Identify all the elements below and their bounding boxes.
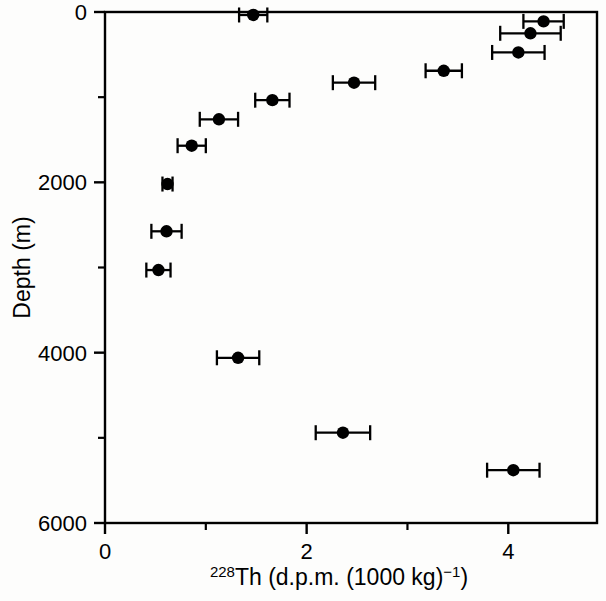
data-point-marker bbox=[213, 113, 225, 125]
data-point-marker bbox=[247, 9, 259, 21]
data-point-marker bbox=[266, 94, 278, 106]
y-tick-label: 0 bbox=[75, 0, 87, 25]
y-tick-label: 4000 bbox=[38, 341, 87, 366]
data-point-marker bbox=[186, 140, 198, 152]
data-point-marker bbox=[537, 15, 549, 27]
y-axis-tick-labels: 0200040006000 bbox=[38, 0, 87, 536]
data-point-marker bbox=[160, 225, 172, 237]
data-point-marker bbox=[232, 352, 244, 364]
y-tick-label: 6000 bbox=[38, 511, 87, 536]
plot-frame bbox=[105, 12, 597, 523]
data-point-marker bbox=[512, 46, 524, 58]
y-axis-label: Depth (m) bbox=[9, 216, 35, 318]
isotope-superscript: 228 bbox=[210, 563, 235, 580]
y-tick-label: 2000 bbox=[38, 170, 87, 195]
data-point-marker bbox=[438, 65, 450, 77]
x-tick-label: 0 bbox=[99, 539, 111, 564]
data-points bbox=[152, 9, 550, 477]
data-point-marker bbox=[161, 178, 173, 190]
units-close-paren: ) bbox=[460, 564, 468, 590]
x-axis-label-text: 228Th (d.p.m. (1000 kg)−1) bbox=[210, 563, 468, 591]
plot-frame-rect bbox=[105, 12, 597, 523]
data-point-marker bbox=[337, 427, 349, 439]
y-axis-label-text: Depth (m) bbox=[9, 216, 35, 318]
x-axis-label: 228Th (d.p.m. (1000 kg)−1) bbox=[210, 563, 468, 591]
x-tick-label: 2 bbox=[301, 539, 313, 564]
figure-panel: 024 0200040006000 228Th (d.p.m. (1000 kg… bbox=[0, 0, 606, 601]
th228-depth-profile-chart: 024 0200040006000 228Th (d.p.m. (1000 kg… bbox=[0, 0, 606, 601]
x-tick-label: 4 bbox=[502, 539, 514, 564]
element-symbol: Th bbox=[235, 564, 262, 590]
data-point-marker bbox=[507, 464, 519, 476]
units-text: (d.p.m. (1000 kg) bbox=[262, 564, 444, 590]
x-axis-tick-labels: 024 bbox=[99, 539, 515, 564]
data-point-marker bbox=[348, 76, 360, 88]
data-point-marker bbox=[524, 27, 536, 39]
data-point-marker bbox=[152, 264, 164, 276]
units-exponent: −1 bbox=[443, 563, 460, 580]
